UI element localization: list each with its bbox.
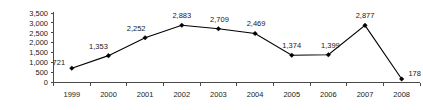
y-tick-label: 0 [44,78,48,87]
data-point-marker [289,53,294,58]
x-tick-label: 1999 [63,90,80,99]
y-tick-label: 1,000 [29,58,48,67]
y-tick-label: 1,500 [29,48,48,57]
x-tick-label: 2002 [173,90,190,99]
chart-canvas: 05001,0001,5002,0002,5003,0003,500 19992… [0,0,423,110]
x-tick-label: 2004 [247,90,264,99]
data-point-marker [70,66,75,71]
data-point-label: 2,709 [210,15,229,24]
data-point-marker [143,35,148,40]
x-tick-label: 2008 [393,90,410,99]
y-tick-label: 3,000 [29,19,48,28]
data-labels: 7211,3532,2522,8832,7092,4691,3741,3992,… [53,11,421,78]
data-point-marker [106,53,111,58]
data-series [70,23,404,81]
x-tick-label: 2000 [100,90,117,99]
data-point-label: 1,399 [321,41,340,50]
y-tick-label: 2,000 [29,38,48,47]
y-axis: 05001,0001,5002,0002,5003,0003,500 [29,9,53,88]
x-tick-label: 2005 [283,90,300,99]
data-point-marker [253,31,258,36]
data-point-marker [179,23,184,28]
data-point-label: 178 [408,69,421,78]
data-point-label: 2,252 [127,24,146,33]
x-tick-label: 2007 [357,90,374,99]
data-point-label: 1,374 [282,41,301,50]
y-tick-label: 2,500 [29,29,48,38]
data-point-label: 2,883 [172,11,191,20]
data-point-label: 2,877 [356,11,375,20]
y-tick-label: 3,500 [29,9,48,18]
x-tick-label: 2006 [320,90,337,99]
series-line [72,25,402,79]
x-axis: 1999200020012002200320042005200620072008 [54,83,421,99]
data-point-label: 2,469 [247,19,266,28]
y-tick-label: 500 [35,68,48,77]
data-point-marker [216,26,221,31]
x-tick-label: 2001 [137,90,154,99]
line-chart: 05001,0001,5002,0002,5003,0003,500 19992… [0,0,423,110]
data-point-label: 1,353 [89,42,108,51]
data-point-label: 721 [53,58,66,67]
x-tick-label: 2003 [210,90,227,99]
